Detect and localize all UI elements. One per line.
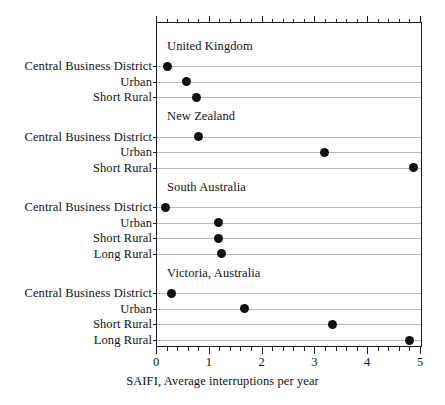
x-axis-major-tick: [262, 347, 263, 354]
x-axis-minor-tick: [346, 347, 347, 351]
x-axis-minor-tick: [378, 347, 379, 351]
x-axis-minor-tick: [230, 347, 231, 351]
category-label: Urban: [120, 145, 152, 160]
category-label: Short Rural: [93, 231, 152, 246]
x-axis-minor-tick: [325, 347, 326, 351]
category-label: Central Business District: [25, 129, 153, 144]
category-label: Central Business District: [25, 286, 153, 301]
x-axis-tick-label: 4: [364, 355, 370, 370]
x-axis-bottom-ticks: 012345: [156, 347, 422, 355]
category-label: Long Rural: [94, 333, 152, 348]
x-axis-tick-label: 3: [311, 355, 317, 370]
x-axis-tick-label: 0: [153, 355, 159, 370]
dot-plot-figure: United KingdomNew ZealandSouth Australia…: [0, 0, 445, 405]
x-axis-minor-tick: [272, 347, 273, 351]
x-axis-major-tick: [156, 347, 157, 354]
x-axis-minor-tick: [167, 347, 168, 351]
x-axis-minor-tick: [399, 347, 400, 351]
category-label: Urban: [120, 301, 152, 316]
x-axis-minor-tick: [283, 347, 284, 351]
x-axis-major-tick: [420, 347, 421, 354]
x-axis-major-tick: [367, 347, 368, 354]
x-axis-major-tick: [314, 347, 315, 354]
x-axis-title: SAIFI, Average interruptions per year: [0, 374, 445, 389]
x-axis-minor-tick: [219, 347, 220, 351]
x-axis-tick-label: 5: [417, 355, 423, 370]
x-axis-tick-label: 2: [258, 355, 264, 370]
x-axis-minor-tick: [293, 347, 294, 351]
x-axis-minor-tick: [198, 347, 199, 351]
x-axis-minor-tick: [240, 347, 241, 351]
x-axis-minor-tick: [409, 347, 410, 351]
category-label-column: Central Business DistrictUrbanShort Rura…: [0, 22, 445, 347]
x-axis-major-tick: [209, 347, 210, 354]
x-axis-minor-tick: [336, 347, 337, 351]
category-label: Urban: [120, 74, 152, 89]
x-axis-tick-label: 1: [206, 355, 212, 370]
x-axis-minor-tick: [188, 347, 189, 351]
category-label: Short Rural: [93, 160, 152, 175]
category-label: Central Business District: [25, 200, 153, 215]
x-axis-minor-tick: [304, 347, 305, 351]
category-label: Urban: [120, 215, 152, 230]
x-axis-minor-tick: [357, 347, 358, 351]
category-label: Central Business District: [25, 59, 153, 74]
x-axis-minor-tick: [251, 347, 252, 351]
category-label: Short Rural: [93, 317, 152, 332]
category-label: Short Rural: [93, 90, 152, 105]
x-axis-minor-tick: [388, 347, 389, 351]
x-axis-minor-tick: [177, 347, 178, 351]
category-label: Long Rural: [94, 246, 152, 261]
